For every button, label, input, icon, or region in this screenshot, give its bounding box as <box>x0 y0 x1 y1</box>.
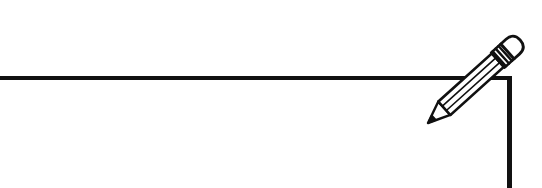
pencil-icon <box>418 28 530 132</box>
